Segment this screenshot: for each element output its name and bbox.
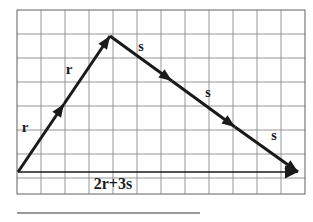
label-s-first: s [138,39,144,54]
label-s-second: s [205,85,211,100]
figure-background [0,0,313,222]
vector-diagram-figure: r r s s s 2r+3s [0,0,313,222]
label-resultant-sum: 2r+3s [94,175,132,192]
label-r-upper: r [66,61,73,77]
vector-diagram-canvas: r r s s s 2r+3s [0,0,313,222]
label-r-lower: r [22,119,29,135]
label-s-third: s [271,128,277,143]
